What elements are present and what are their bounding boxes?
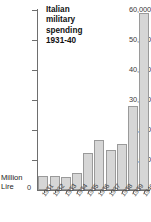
y-tick-10000 (32, 160, 37, 161)
bar-1938 (117, 144, 127, 190)
bar-1936 (94, 140, 104, 190)
bar-1940 (139, 13, 149, 190)
bar-chart: 10,00020,00030,00040,00050,00060,000 193… (0, 0, 151, 222)
y-axis-title-line-1: Million (1, 173, 23, 182)
chart-title-line-2: military (46, 15, 106, 25)
y-tick-60000 (32, 10, 37, 11)
chart-title: Italian military spending 1931-40 (46, 5, 106, 47)
chart-title-line-3: spending (46, 26, 106, 36)
y-tick-20000 (32, 130, 37, 131)
bar-1939 (128, 106, 138, 190)
y-axis-zero-label: 0 (27, 184, 31, 191)
y-tick-30000 (32, 100, 37, 101)
x-axis-labels: 1931193219331934193519361937193819391940 (38, 191, 150, 222)
y-tick-50000 (32, 40, 37, 41)
chart-title-line-1: Italian (46, 5, 106, 15)
y-tick-40000 (32, 70, 37, 71)
chart-title-line-4: 1931-40 (46, 36, 106, 46)
